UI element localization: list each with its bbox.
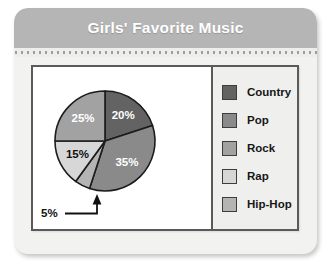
pie-chart: 20%35%15%25%5% xyxy=(33,67,211,229)
legend-label-country: Country xyxy=(247,86,291,98)
legend-item-rock[interactable]: Rock xyxy=(222,134,297,162)
legend-label-hiphop: Hip-Hop xyxy=(247,198,292,210)
pie-plot-area: 20%35%15%25%5% xyxy=(33,67,211,229)
legend-label-pop: Pop xyxy=(247,114,269,126)
page-title: Girls' Favorite Music xyxy=(87,19,243,37)
legend-label-rap: Rap xyxy=(247,170,269,182)
chart-frame: 20%35%15%25%5% Country Pop Rock Rap xyxy=(31,65,299,231)
legend-item-rap[interactable]: Rap xyxy=(222,162,297,190)
dotted-divider xyxy=(14,48,317,57)
pie-label-rock: 25% xyxy=(72,112,95,124)
legend-item-pop[interactable]: Pop xyxy=(222,106,297,134)
card-header: Girls' Favorite Music xyxy=(14,8,317,48)
pie-label-pop: 35% xyxy=(115,156,138,168)
pie-label-country: 20% xyxy=(112,109,135,121)
legend-label-rock: Rock xyxy=(247,142,275,154)
pie-label-rap: 15% xyxy=(66,148,89,160)
legend-swatch-rap xyxy=(222,169,237,184)
legend-swatch-country xyxy=(222,85,237,100)
legend-item-country[interactable]: Country xyxy=(222,78,297,106)
callout-arrow-icon xyxy=(93,194,102,205)
callout-leader-line xyxy=(65,203,97,214)
legend-swatch-rock xyxy=(222,141,237,156)
legend-swatch-pop xyxy=(222,113,237,128)
callout-label: 5% xyxy=(41,207,58,219)
callout-5-percent: 5% xyxy=(41,194,101,219)
legend-swatch-hiphop xyxy=(222,197,237,212)
chart-card: Girls' Favorite Music 20%35%15%25%5% Cou… xyxy=(14,8,317,254)
chart-legend: Country Pop Rock Rap Hip-Hop xyxy=(213,67,297,229)
legend-item-hiphop[interactable]: Hip-Hop xyxy=(222,190,297,218)
